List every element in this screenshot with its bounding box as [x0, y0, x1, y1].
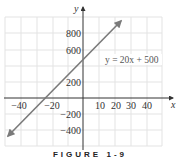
x-axis-label: x — [170, 99, 176, 110]
svg-text:−40: −40 — [11, 100, 27, 111]
svg-text:30: 30 — [126, 100, 136, 111]
svg-text:40: 40 — [142, 100, 152, 111]
svg-text:20: 20 — [111, 100, 121, 111]
svg-text:−400: −400 — [60, 125, 81, 136]
svg-text:600: 600 — [66, 45, 81, 56]
y-axis-label: y — [73, 3, 79, 14]
svg-text:−200: −200 — [60, 109, 81, 120]
x-tick-labels: −40 −20 10 20 30 40 — [11, 100, 152, 111]
figure-caption: FIGURE 1-9 — [0, 150, 180, 159]
svg-text:800: 800 — [66, 28, 81, 39]
svg-text:10: 10 — [95, 100, 105, 111]
svg-text:−20: −20 — [44, 100, 60, 111]
svg-text:200: 200 — [66, 77, 81, 88]
line-chart: y x 800 600 200 −200 −400 −40 −20 10 20 … — [0, 0, 180, 160]
equation-label: y = 20x + 500 — [105, 55, 159, 65]
